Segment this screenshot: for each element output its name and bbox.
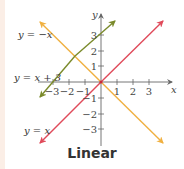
label-y-eq-x-plus-3: y = x + 3: [13, 72, 61, 83]
x-tick-m3: −3: [45, 86, 60, 97]
y-tick-2: 2: [91, 46, 97, 57]
x-tick-m2: −2: [60, 86, 75, 97]
y-tick-3: 3: [91, 30, 97, 41]
line-y-eq-x: [101, 21, 163, 82]
label-y-eq-x: y = x: [23, 125, 50, 136]
origin-point: [99, 80, 102, 83]
y-tick-m2: −2: [82, 109, 97, 120]
x-tick-2: 2: [130, 86, 136, 97]
y-tick-m3: −3: [82, 124, 97, 135]
label-y-eq-neg-x: y = −x: [17, 29, 53, 40]
x-axis-label: x: [171, 84, 177, 95]
y-axis-label: y: [91, 9, 98, 20]
y-tick-m1: −1: [82, 93, 97, 104]
y-tick-1: 1: [91, 61, 97, 72]
x-tick-1: 1: [114, 86, 120, 97]
x-tick-3: 3: [146, 86, 152, 97]
linear-graph: −3 −2 −1 1 2 3 3 2 1 −1 −2 −3 x y y = −x…: [0, 0, 184, 169]
chart-title: Linear: [0, 145, 184, 161]
